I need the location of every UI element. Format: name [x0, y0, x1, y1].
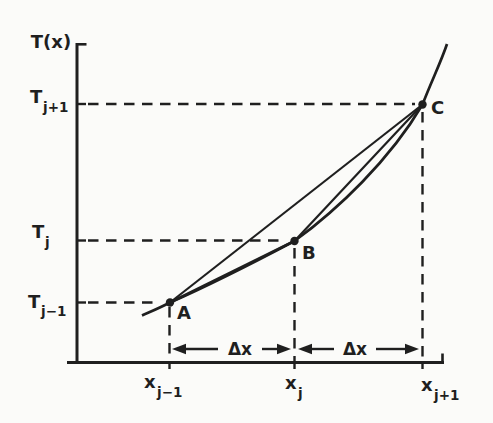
- point-C-dot: [418, 100, 426, 108]
- diagram-canvas: T(x) Tj+1 Tj Tj−1 xj−1 xj xj+1 A B C Δx …: [0, 0, 493, 423]
- point-A-label: A: [177, 302, 191, 323]
- chord-A-C: [170, 105, 423, 303]
- arrowhead-right-interval1: [277, 344, 291, 354]
- x-tick-label-xj-sub: j: [297, 385, 303, 401]
- point-C-label: C: [431, 97, 444, 118]
- x-tick-label-xj-base: x: [285, 372, 297, 393]
- y-axis-title: T(x): [31, 31, 71, 52]
- arrowhead-left-interval2: [298, 344, 312, 354]
- delta-x-label-interval2: Δx: [343, 339, 367, 359]
- y-tick-label-tj1-sub: j+1: [42, 99, 68, 115]
- x-tick-label-xj1-sub: j+1: [433, 387, 459, 403]
- arrowhead-left-interval1: [172, 344, 186, 354]
- finite-difference-figure: T(x) Tj+1 Tj Tj−1 xj−1 xj xj+1 A B C Δx …: [0, 0, 493, 423]
- y-tick-label-tj1-base: T: [30, 86, 43, 107]
- y-tick-label-tj: Tj: [32, 221, 50, 250]
- y-tick-label-tjm1: Tj−1: [28, 291, 66, 319]
- y-tick-label-tj1: Tj+1: [30, 86, 68, 115]
- x-tick-label-xj: xj: [285, 372, 303, 401]
- y-tick-label-tj-base: T: [32, 221, 45, 242]
- point-A-dot: [166, 298, 174, 306]
- point-B-dot: [290, 237, 298, 245]
- arrowhead-right-interval2: [405, 344, 419, 354]
- chord-A-B: [170, 241, 295, 303]
- x-tick-label-xjm1: xj−1: [144, 371, 182, 400]
- y-tick-label-tjm1-base: T: [28, 291, 41, 312]
- y-tick-label-tjm1-sub: j−1: [40, 303, 66, 319]
- y-tick-label-tj-sub: j: [44, 234, 50, 250]
- x-tick-label-xj1: xj+1: [421, 374, 459, 403]
- x-tick-label-xjm1-base: x: [144, 371, 156, 392]
- x-tick-label-xj1-base: x: [421, 374, 433, 395]
- x-tick-label-xjm1-sub: j−1: [156, 384, 182, 400]
- axes: [67, 43, 444, 369]
- point-B-label: B: [302, 242, 316, 263]
- chord-B-C: [295, 105, 423, 242]
- delta-x-label-interval1: Δx: [228, 339, 252, 359]
